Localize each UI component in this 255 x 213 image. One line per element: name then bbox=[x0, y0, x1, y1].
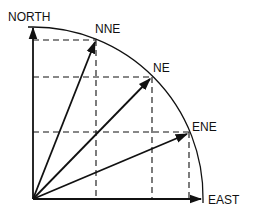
east-label: EAST bbox=[208, 193, 240, 207]
ne-vector-arrow bbox=[33, 79, 150, 199]
compass-vector-diagram: NORTH NNE NE ENE EAST bbox=[0, 0, 255, 213]
ne-label: NE bbox=[153, 61, 170, 75]
north-label: NORTH bbox=[8, 10, 50, 24]
ene-vector-arrow bbox=[33, 134, 187, 199]
nne-label: NNE bbox=[95, 22, 120, 36]
ene-label: ENE bbox=[192, 120, 217, 134]
nne-vector-arrow bbox=[33, 42, 95, 199]
